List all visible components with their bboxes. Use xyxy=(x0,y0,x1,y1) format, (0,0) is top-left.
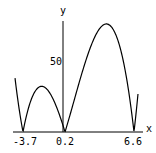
function-curve xyxy=(15,24,138,131)
x-tick-6.6: 6.6 xyxy=(124,136,142,147)
x-tick-0.2: 0.2 xyxy=(56,136,74,147)
y-axis-label: y xyxy=(60,5,66,16)
chart: x y 50 -3.7 0.2 6.6 xyxy=(0,0,156,153)
y-tick-50: 50 xyxy=(50,56,62,67)
x-tick-neg3.7: -3.7 xyxy=(13,136,37,147)
x-axis-label: x xyxy=(146,123,152,134)
